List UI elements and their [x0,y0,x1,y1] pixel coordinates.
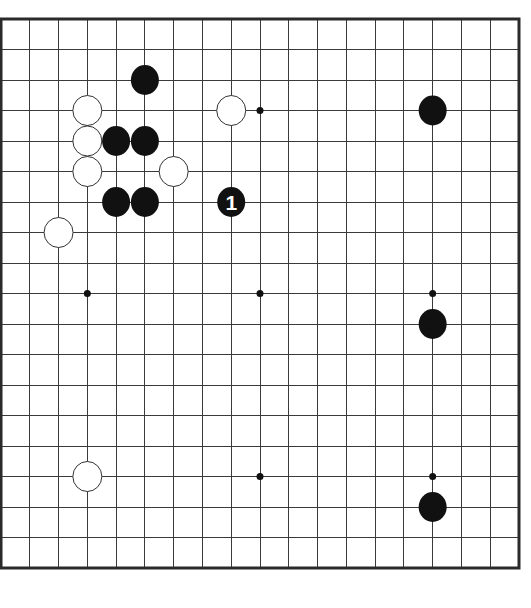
white-stone-icon [44,218,73,248]
black-stone-icon [419,309,447,339]
go-board: 1 [0,0,531,608]
go-board-svg: 1 [0,0,531,608]
white-stone [73,157,102,187]
black-stone [419,309,447,339]
star-point-icon [429,473,436,480]
white-stone-icon [73,96,102,126]
black-stone-icon [102,126,130,156]
black-stone [419,492,447,522]
white-stone-icon [73,157,102,187]
star-point-icon [257,473,264,480]
black-stone [419,96,447,126]
star-point-icon [257,107,264,114]
star-point-icon [429,290,436,297]
black-stone [102,126,130,156]
move-number-label: 1 [225,191,237,214]
white-stone-icon [159,157,188,187]
white-stone [73,126,102,156]
black-stone-icon [419,492,447,522]
white-stone [73,462,102,492]
black-stone-icon [131,187,159,217]
white-stone [44,218,73,248]
star-point-icon [84,290,91,297]
black-stone [131,65,159,95]
black-stone-icon [131,126,159,156]
white-stone [159,157,188,187]
white-stone [217,96,246,126]
black-stone-icon [419,96,447,126]
white-stone [73,96,102,126]
black-stone-icon [131,65,159,95]
white-stone-icon [217,96,246,126]
black-stone-icon [102,187,130,217]
black-stone [131,126,159,156]
black-stone [102,187,130,217]
white-stone-icon [73,462,102,492]
star-point-icon [257,290,264,297]
white-stone-icon [73,126,102,156]
black-stone: 1 [217,187,245,217]
black-stone [131,187,159,217]
